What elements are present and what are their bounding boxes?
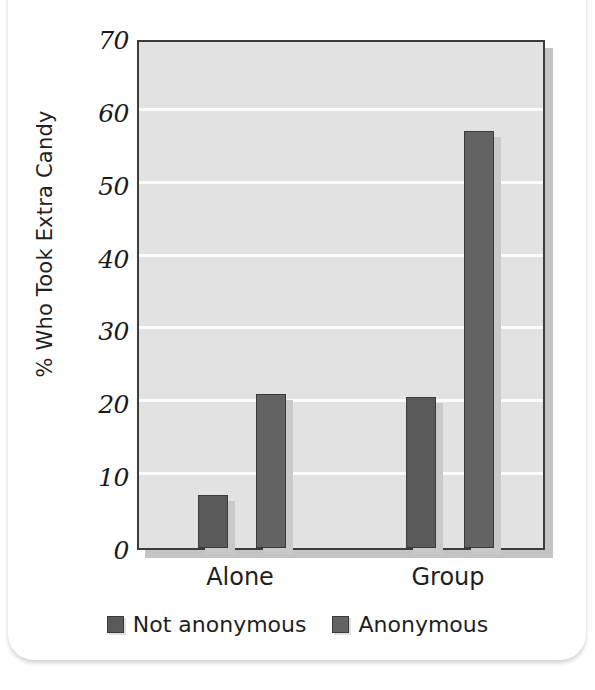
x-axis-ticks: AloneGroup [137,563,545,603]
y-axis-title: % Who Took Extra Candy [33,94,57,394]
y-tick-label: 50 [65,171,129,200]
y-tick-label: 0 [65,536,129,565]
plot-area [137,40,545,550]
gridline [139,108,543,111]
chart-legend: Not anonymousAnonymous [0,612,595,637]
legend-item-not-anonymous[interactable]: Not anonymous [107,612,307,637]
y-tick-label: 10 [65,463,129,492]
x-tick-label-alone: Alone [170,563,310,591]
bar-group-anonymous[interactable] [464,131,494,548]
y-tick-label: 20 [65,390,129,419]
legend-item-anonymous[interactable]: Anonymous [332,612,488,637]
y-axis-ticks: 010203040506070 [55,40,129,550]
bar-alone-anonymous[interactable] [256,394,286,548]
y-tick-label: 30 [65,317,129,346]
bar-chart: 010203040506070 % Who Took Extra Candy A… [0,0,595,690]
y-tick-label: 70 [65,26,129,55]
y-tick-label: 40 [65,244,129,273]
legend-label: Not anonymous [133,612,307,637]
bar-alone-not-anonymous[interactable] [198,495,228,548]
y-tick-label: 60 [65,98,129,127]
bar-group-not-anonymous[interactable] [406,397,436,548]
legend-label: Anonymous [358,612,488,637]
x-tick-label-group: Group [378,563,518,591]
legend-swatch-icon [332,616,349,633]
legend-swatch-icon [107,616,124,633]
